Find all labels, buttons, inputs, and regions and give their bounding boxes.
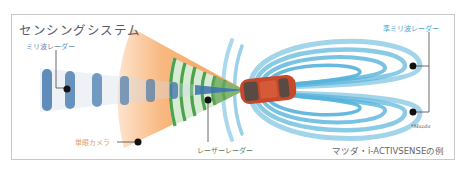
label-millimeter-wave-radar: ミリ波レーダー <box>26 41 75 51</box>
caption: マツダ・i-ACTIVSENSEの例 <box>332 144 444 156</box>
label-laser-radar: レーザーレーダー <box>197 145 253 155</box>
credit-text: *Mazda <box>411 123 430 129</box>
label-monocular-camera: 単眼カメラ <box>75 137 110 147</box>
camera-sensor-dot <box>135 139 142 146</box>
label-quasi-millimeter-wave-radar: 準ミリ波レーダー <box>383 23 439 33</box>
laser-sensor-dot <box>205 97 212 104</box>
nmmw-sensor-dot-bottom <box>410 109 417 116</box>
mmw-sensor-dot <box>64 86 71 93</box>
nmmw-sensor-dot-top <box>410 63 417 70</box>
car <box>239 74 297 105</box>
diagram-title: センシングシステム <box>19 20 141 39</box>
